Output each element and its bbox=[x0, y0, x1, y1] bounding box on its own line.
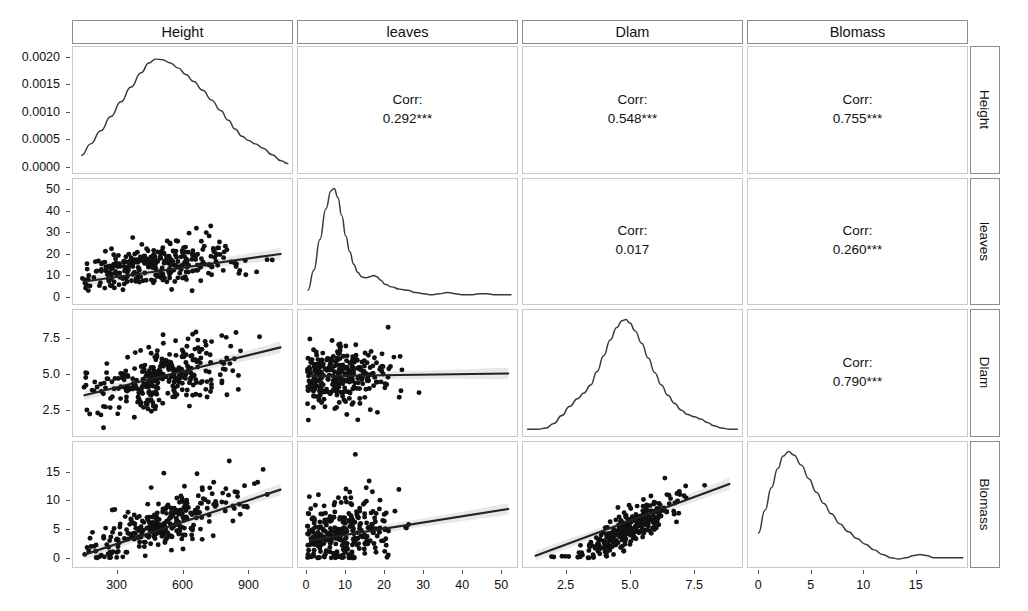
corr-panel-height-dlam: Corr:0.548*** bbox=[522, 46, 743, 174]
x-tick-label-0-1: 600 bbox=[172, 578, 193, 592]
x-tick-mark-0-0 bbox=[117, 570, 118, 574]
y-tick-mark-1-0 bbox=[66, 297, 70, 298]
x-tick-mark-1-5 bbox=[501, 570, 502, 574]
column-header-dlam: Dlam bbox=[522, 20, 743, 44]
density-panel-height bbox=[72, 46, 293, 174]
x-tick-mark-1-1 bbox=[345, 570, 346, 574]
y-tick-label-2-1: 5.0 bbox=[0, 367, 60, 381]
y-tick-label-3-1: 5 bbox=[0, 522, 60, 536]
x-tick-label-1-3: 30 bbox=[416, 578, 430, 592]
scatter-panel-height-dlam bbox=[72, 309, 293, 437]
corr-panel-height-blomass: Corr:0.755*** bbox=[747, 46, 968, 174]
corr-label: Corr: bbox=[843, 223, 873, 240]
corr-panel-leaves-blomass: Corr:0.260*** bbox=[747, 178, 968, 306]
x-tick-mark-3-3 bbox=[916, 570, 917, 574]
x-tick-mark-2-0 bbox=[566, 570, 567, 574]
column-header-height: Height bbox=[72, 20, 293, 44]
column-header-leaves: leaves bbox=[297, 20, 518, 44]
x-tick-mark-3-2 bbox=[863, 570, 864, 574]
pairs-plot-matrix: HeightleavesDlamBlomassHeightleavesDlamB… bbox=[0, 0, 1028, 611]
corr-label: Corr: bbox=[843, 355, 873, 372]
y-tick-label-1-1: 10 bbox=[0, 268, 60, 282]
y-tick-mark-2-2 bbox=[66, 338, 70, 339]
y-tick-label-0-2: 0.0010 bbox=[0, 105, 60, 119]
corr-label: Corr: bbox=[393, 92, 423, 109]
y-tick-mark-3-2 bbox=[66, 500, 70, 501]
x-tick-mark-3-0 bbox=[758, 570, 759, 574]
x-tick-label-3-1: 5 bbox=[807, 578, 814, 592]
x-tick-label-2-2: 7.5 bbox=[686, 578, 703, 592]
corr-panel-leaves-dlam: Corr:0.017 bbox=[522, 178, 743, 306]
x-tick-label-3-2: 10 bbox=[856, 578, 870, 592]
row-label-text: leaves bbox=[978, 222, 993, 261]
column-header-label: leaves bbox=[387, 24, 429, 40]
row-label-blomass: Blomass bbox=[970, 441, 1000, 569]
column-header-blomass: Blomass bbox=[747, 20, 968, 44]
y-tick-label-1-3: 30 bbox=[0, 225, 60, 239]
y-tick-label-1-5: 50 bbox=[0, 182, 60, 196]
y-tick-label-3-2: 10 bbox=[0, 493, 60, 507]
y-tick-label-1-2: 20 bbox=[0, 247, 60, 261]
scatter-panel-leaves-blomass bbox=[297, 441, 518, 569]
corr-value: 0.790*** bbox=[833, 374, 883, 391]
column-header-label: Blomass bbox=[830, 24, 886, 40]
scatter-panel-dlam-blomass bbox=[522, 441, 743, 569]
x-tick-mark-2-2 bbox=[694, 570, 695, 574]
y-tick-mark-1-1 bbox=[66, 275, 70, 276]
y-tick-label-0-0: 0.0000 bbox=[0, 160, 60, 174]
y-tick-mark-3-1 bbox=[66, 529, 70, 530]
x-tick-mark-3-1 bbox=[811, 570, 812, 574]
corr-value: 0.548*** bbox=[608, 111, 658, 128]
y-tick-mark-1-3 bbox=[66, 232, 70, 233]
scatter-panel-height-blomass bbox=[72, 441, 293, 569]
row-label-text: Blomass bbox=[978, 478, 993, 530]
y-tick-mark-1-4 bbox=[66, 211, 70, 212]
y-tick-mark-0-2 bbox=[66, 112, 70, 113]
y-tick-mark-2-0 bbox=[66, 410, 70, 411]
row-label-text: Height bbox=[978, 90, 993, 129]
x-tick-mark-0-1 bbox=[183, 570, 184, 574]
x-tick-label-2-1: 5.0 bbox=[621, 578, 638, 592]
scatter-panel-leaves-dlam bbox=[297, 309, 518, 437]
x-tick-mark-1-4 bbox=[462, 570, 463, 574]
y-tick-label-3-3: 15 bbox=[0, 465, 60, 479]
corr-label: Corr: bbox=[618, 92, 648, 109]
corr-value: 0.260*** bbox=[833, 242, 883, 259]
y-tick-mark-0-0 bbox=[66, 167, 70, 168]
y-tick-mark-2-1 bbox=[66, 374, 70, 375]
x-tick-label-3-3: 15 bbox=[909, 578, 923, 592]
x-tick-label-1-2: 20 bbox=[377, 578, 391, 592]
y-tick-mark-3-0 bbox=[66, 558, 70, 559]
y-tick-mark-0-4 bbox=[66, 57, 70, 58]
y-tick-mark-0-1 bbox=[66, 139, 70, 140]
row-label-text: Dlam bbox=[978, 357, 993, 389]
x-tick-mark-0-2 bbox=[248, 570, 249, 574]
density-panel-dlam bbox=[522, 309, 743, 437]
y-tick-label-0-3: 0.0015 bbox=[0, 77, 60, 91]
row-label-leaves: leaves bbox=[970, 178, 1000, 306]
x-tick-mark-1-2 bbox=[384, 570, 385, 574]
x-tick-mark-1-0 bbox=[306, 570, 307, 574]
x-tick-mark-1-3 bbox=[423, 570, 424, 574]
density-panel-leaves bbox=[297, 178, 518, 306]
y-tick-label-0-4: 0.0020 bbox=[0, 50, 60, 64]
y-tick-mark-3-3 bbox=[66, 472, 70, 473]
density-panel-blomass bbox=[747, 441, 968, 569]
corr-panel-dlam-blomass: Corr:0.790*** bbox=[747, 309, 968, 437]
y-tick-label-1-4: 40 bbox=[0, 204, 60, 218]
x-tick-label-1-4: 40 bbox=[455, 578, 469, 592]
y-tick-label-1-0: 0 bbox=[0, 290, 60, 304]
y-tick-mark-1-2 bbox=[66, 254, 70, 255]
row-label-dlam: Dlam bbox=[970, 309, 1000, 437]
x-tick-label-1-5: 50 bbox=[494, 578, 508, 592]
y-tick-mark-1-5 bbox=[66, 189, 70, 190]
y-tick-mark-0-3 bbox=[66, 84, 70, 85]
corr-value: 0.755*** bbox=[833, 111, 883, 128]
y-tick-label-2-2: 7.5 bbox=[0, 331, 60, 345]
x-tick-mark-2-1 bbox=[630, 570, 631, 574]
column-header-label: Dlam bbox=[616, 24, 650, 40]
corr-label: Corr: bbox=[843, 92, 873, 109]
y-tick-label-3-0: 0 bbox=[0, 551, 60, 565]
column-header-label: Height bbox=[162, 24, 204, 40]
corr-value: 0.017 bbox=[616, 242, 650, 259]
